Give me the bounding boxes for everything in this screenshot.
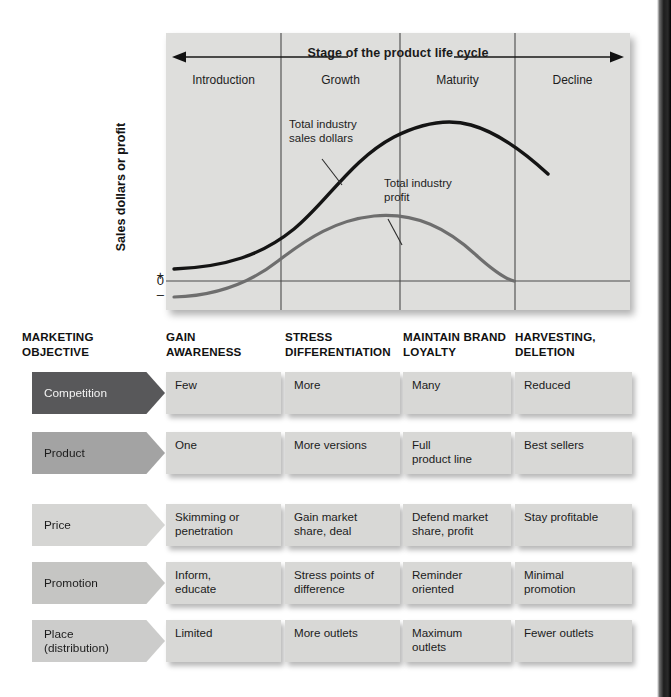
cell-competition-growth[interactable]: More [285,372,400,414]
figure-page: Stage of the product life cycle Introduc… [0,0,671,697]
cell-price-decline-line1: Stay profitable [524,510,632,524]
row-label-product-line1: Product [44,446,85,460]
cell-price-growth-line1: Gain market [294,510,400,524]
cell-competition-maturity[interactable]: Many [403,372,511,414]
cell-promotion-introduction[interactable]: Inform, educate [166,562,281,604]
cell-place-growth-line1: More outlets [294,626,400,640]
cell-promotion-maturity[interactable]: Reminder oriented [403,562,511,604]
objective-stress-differentiation-line2: DIFFERENTIATION [285,345,409,360]
cell-place-maturity-line2: outlets [412,640,511,654]
cell-competition-decline-line1: Reduced [524,378,632,392]
cell-competition-introduction[interactable]: Few [166,372,281,414]
profit-annotation-line1: Total industry [384,177,452,191]
cell-price-introduction-line1: Skimming or [175,510,281,524]
row-label-place-line1: Place [44,627,109,641]
row-label-price-line1: Price [44,518,71,532]
cell-promotion-introduction-line1: Inform, [175,568,281,582]
cell-place-decline[interactable]: Fewer outlets [515,620,632,662]
objective-maintain-brand-loyalty: MAINTAIN BRAND LOYALTY [403,330,521,359]
cell-product-introduction-line1: One [175,438,281,452]
row-label-price[interactable]: Price [32,504,165,546]
objective-maintain-brand-loyalty-line2: LOYALTY [403,345,521,360]
cell-price-maturity[interactable]: Defend market share, profit [403,504,511,546]
cell-promotion-decline[interactable]: Minimal promotion [515,562,632,604]
objective-gain-awareness-line1: GAIN [166,330,281,345]
cell-product-maturity-line2: product line [412,452,511,466]
cell-promotion-growth[interactable]: Stress points of difference [285,562,400,604]
cell-promotion-maturity-line2: oriented [412,582,511,596]
y-axis-title: Sales dollars or profit [114,97,128,277]
cell-price-introduction-line2: penetration [175,524,281,538]
stage-label-decline: Decline [515,73,630,87]
axis-mark-zero: 0 [150,273,164,288]
row-label-product[interactable]: Product [32,432,165,474]
cell-promotion-introduction-line2: educate [175,582,281,596]
cell-promotion-decline-line1: Minimal [524,568,632,582]
sales-dollars-curve [174,122,548,269]
row-label-competition[interactable]: Competition [32,372,165,414]
row-label-promotion-line1: Promotion [44,576,98,590]
axis-mark-minus: – [150,287,164,302]
chart-title: Stage of the product life cycle [166,46,630,60]
product-life-cycle-chart: Stage of the product life cycle Introduc… [166,33,630,310]
y-axis-title-wrap: Sales dollars or profit [104,100,138,280]
row-label-promotion-text: Promotion [32,576,98,590]
sales-annotation-line1: Total industry [289,118,357,132]
profit-annotation: Total industry profit [384,177,452,204]
cell-place-growth[interactable]: More outlets [285,620,400,662]
cell-product-decline[interactable]: Best sellers [515,432,632,474]
stage-label-introduction: Introduction [166,73,281,87]
marketing-objective-heading-line1: MARKETING [22,330,94,345]
cell-price-introduction[interactable]: Skimming or penetration [166,504,281,546]
objective-harvesting-deletion: HARVESTING, DELETION [515,330,635,359]
sales-dollars-annotation: Total industry sales dollars [289,118,357,145]
cell-price-maturity-line2: share, profit [412,524,511,538]
objective-stress-differentiation: STRESS DIFFERENTIATION [285,330,409,359]
row-label-price-text: Price [32,518,71,532]
cell-promotion-growth-line2: difference [294,582,400,596]
cell-price-maturity-line1: Defend market [412,510,511,524]
objective-stress-differentiation-line1: STRESS [285,330,409,345]
cell-competition-maturity-line1: Many [412,378,511,392]
cell-product-maturity-line1: Full [412,438,511,452]
cell-product-decline-line1: Best sellers [524,438,632,452]
stage-label-growth: Growth [281,73,400,87]
sales-annotation-line2: sales dollars [289,132,357,146]
cell-promotion-growth-line1: Stress points of [294,568,400,582]
cell-product-introduction[interactable]: One [166,432,281,474]
profit-curve [174,215,514,297]
cell-competition-growth-line1: More [294,378,400,392]
cell-price-growth-line2: share, deal [294,524,400,538]
row-label-competition-text: Competition [32,386,107,400]
marketing-objective-heading: MARKETING OBJECTIVE [22,330,94,359]
cell-place-maturity[interactable]: Maximum outlets [403,620,511,662]
row-label-product-text: Product [32,446,85,460]
row-label-place[interactable]: Place (distribution) [32,620,165,662]
stage-label-maturity: Maturity [400,73,515,87]
objective-harvesting-deletion-line2: DELETION [515,345,635,360]
cell-place-introduction[interactable]: Limited [166,620,281,662]
cell-promotion-maturity-line1: Reminder [412,568,511,582]
page-gutter [657,0,671,697]
row-label-place-line2: (distribution) [44,641,109,655]
cell-competition-decline[interactable]: Reduced [515,372,632,414]
sales-label-leader [322,159,342,185]
cell-promotion-decline-line2: promotion [524,582,632,596]
cell-price-decline[interactable]: Stay profitable [515,504,632,546]
objective-harvesting-deletion-line1: HARVESTING, [515,330,635,345]
objective-gain-awareness: GAIN AWARENESS [166,330,281,359]
cell-place-decline-line1: Fewer outlets [524,626,632,640]
marketing-objective-heading-line2: OBJECTIVE [22,345,94,360]
profit-annotation-line2: profit [384,191,452,205]
row-label-place-text: Place (distribution) [32,627,109,655]
cell-product-growth[interactable]: More versions [285,432,400,474]
cell-price-growth[interactable]: Gain market share, deal [285,504,400,546]
objective-gain-awareness-line2: AWARENESS [166,345,281,360]
cell-product-maturity[interactable]: Full product line [403,432,511,474]
objective-maintain-brand-loyalty-line1: MAINTAIN BRAND [403,330,521,345]
row-label-competition-line1: Competition [44,386,107,400]
cell-product-growth-line1: More versions [294,438,400,452]
cell-competition-introduction-line1: Few [175,378,281,392]
cell-place-maturity-line1: Maximum [412,626,511,640]
row-label-promotion[interactable]: Promotion [32,562,165,604]
